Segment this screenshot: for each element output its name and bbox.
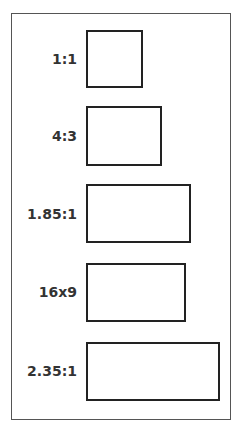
ratio-label-1-85-1: 1.85:1 — [27, 206, 77, 222]
ratio-box-1-1 — [86, 30, 143, 88]
ratio-label-1-1: 1:1 — [52, 51, 77, 67]
ratio-label-2-35-1: 2.35:1 — [27, 363, 77, 379]
ratio-label-4-3: 4:3 — [52, 128, 77, 144]
ratio-box-2-35-1 — [86, 342, 220, 401]
ratio-box-16x9 — [86, 263, 186, 322]
ratio-box-1-85-1 — [86, 184, 191, 243]
ratio-label-16x9: 16x9 — [39, 284, 77, 300]
ratio-box-4-3 — [86, 106, 162, 166]
